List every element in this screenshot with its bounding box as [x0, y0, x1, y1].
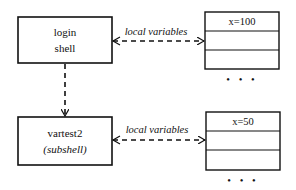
edge-label: local variables	[126, 124, 189, 135]
edge-label: local variables	[125, 26, 188, 37]
diagram-canvas: login shell vartest2 (subshell) x=100 • …	[0, 0, 296, 190]
node-login-shell: login shell	[18, 17, 112, 63]
node-box	[18, 117, 112, 165]
edge-login-local-variables: local variables	[113, 26, 204, 45]
table-vartest2-vars: x=50 • • •	[206, 112, 280, 186]
node-vartest2: vartest2 (subshell)	[18, 117, 112, 165]
node-label-line2: (subshell)	[43, 143, 87, 156]
node-label-line1: login	[54, 26, 77, 38]
table-login-vars: x=100 • • •	[205, 12, 279, 85]
node-box	[18, 17, 112, 63]
table-cell: x=100	[229, 16, 256, 27]
edge-vartest2-local-variables: local variables	[113, 124, 205, 144]
table-continuation: • • •	[227, 175, 258, 186]
node-label-line2: shell	[55, 42, 76, 54]
table-cell: x=50	[232, 116, 254, 127]
node-label-line1: vartest2	[48, 127, 83, 139]
table-continuation: • • •	[226, 74, 257, 85]
